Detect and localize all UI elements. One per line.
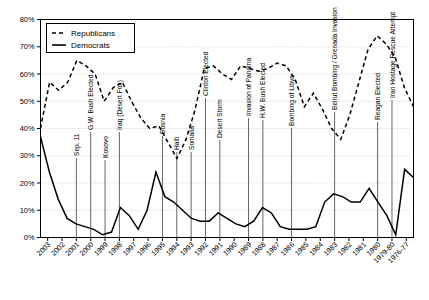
y-axis-tick-label: 40%	[20, 124, 35, 133]
y-axis-tick-label: 30%	[20, 151, 35, 160]
annotation-label: Desert Storm	[216, 99, 223, 138]
annotation-label: Somalia	[188, 126, 195, 150]
y-axis-tick-label: 70%	[20, 42, 35, 51]
annotation-label: G.W. Bush Elected	[87, 74, 94, 130]
annotation-label: Clinton Elected	[202, 51, 209, 96]
y-axis-tick-label: 50%	[20, 97, 35, 106]
y-axis-tick-label: 80%	[20, 15, 35, 24]
annotation-label: Beirut Bombing / Grenada Invasion	[331, 7, 339, 110]
legend-label-democrats: Democrats	[71, 41, 110, 50]
annotation-label: Reagan Elected	[374, 73, 382, 120]
annotation-label: Invasion of Panama	[245, 57, 252, 116]
y-axis-tick-labels: 0%10%20%30%40%50%60%70%80%	[20, 15, 35, 242]
y-axis-tick-label: 60%	[20, 70, 35, 79]
annotation-label: Bombing of Libya	[288, 75, 296, 126]
annotation-label: Iraq (Desert Fox)	[116, 80, 124, 130]
y-axis-tick-label: 20%	[20, 179, 35, 188]
approval-line-chart: 0%10%20%30%40%50%60%70%80% 2003200220012…	[0, 0, 429, 300]
chart-legend: Republicans Democrats	[47, 24, 135, 53]
y-axis-tick-label: 0%	[24, 233, 35, 242]
y-axis-tick-label: 10%	[20, 206, 35, 215]
legend-label-republicans: Republicans	[71, 29, 115, 38]
chart-container: 0%10%20%30%40%50%60%70%80% 2003200220012…	[0, 0, 429, 300]
annotation-label: Kosovo	[102, 136, 109, 158]
annotation-label: Sep. 11	[73, 133, 81, 156]
annotation-label: H.W. Bush Elected	[259, 63, 266, 118]
annotation-label: Bosnia	[159, 114, 166, 134]
annotation-label: Haiti	[173, 136, 180, 150]
